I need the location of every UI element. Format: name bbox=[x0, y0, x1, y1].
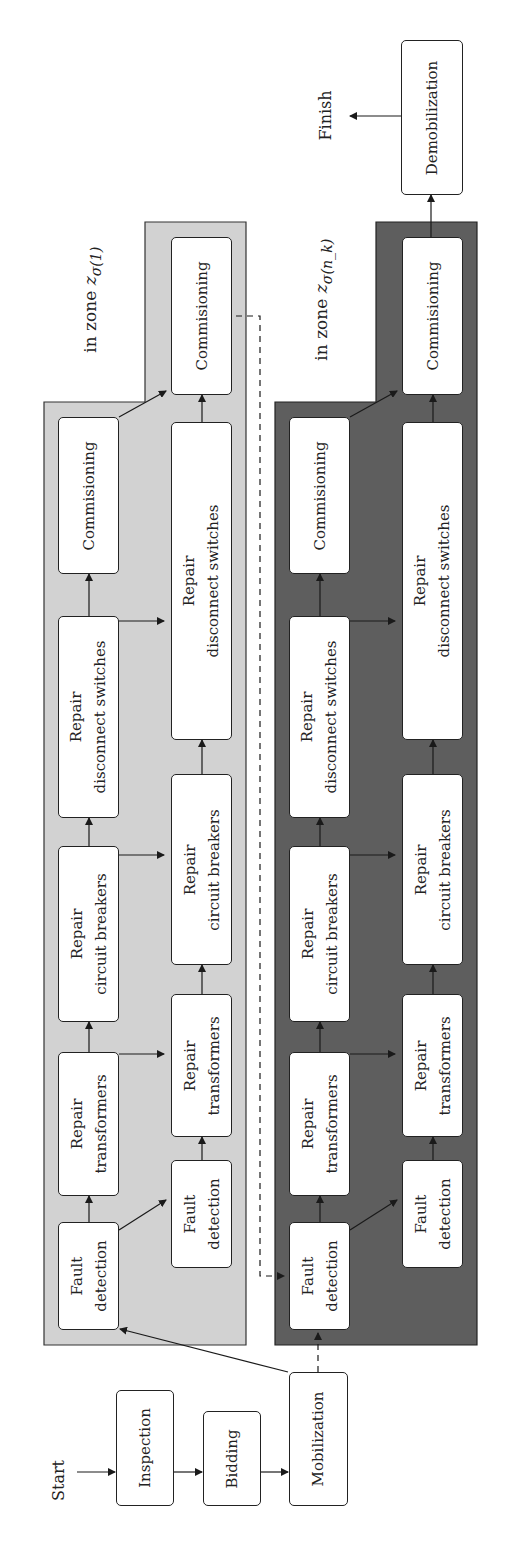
inspection-box[interactable]: Inspection bbox=[116, 1390, 174, 1506]
inspection-label: Inspection bbox=[133, 1408, 157, 1488]
znk-outer-repair-disconnect-switches[interactable]: Repairdisconnect switches bbox=[289, 616, 350, 818]
z1-inner-fault-detection[interactable]: Faultdetection bbox=[171, 1160, 232, 1268]
bidding-box[interactable]: Bidding bbox=[203, 1411, 261, 1506]
z1-outer-repair-circuit-breakers[interactable]: Repaircircuit breakers bbox=[58, 846, 119, 1022]
demobilization-label: Demobilization bbox=[420, 60, 444, 175]
start-label-wrap: Start bbox=[38, 1440, 78, 1520]
z1-inner-repair-disconnect-switches[interactable]: Repairdisconnect switches bbox=[171, 422, 232, 740]
znk-inner-commissioning[interactable]: Commisioning bbox=[402, 237, 463, 395]
znk-outer-repair-transformers[interactable]: Repairtransformers bbox=[289, 1052, 350, 1196]
znk-outer-fault-detection[interactable]: Faultdetection bbox=[289, 1222, 350, 1330]
z1-outer-repair-disconnect-switches[interactable]: Repairdisconnect switches bbox=[58, 616, 119, 818]
finish-label-wrap: Finish bbox=[305, 80, 345, 150]
znk-inner-fault-detection[interactable]: Faultdetection bbox=[402, 1160, 463, 1268]
bidding-label: Bidding bbox=[220, 1429, 244, 1488]
zone-nk-label: in zone zσ(n_k) bbox=[311, 239, 334, 361]
z1-outer-commissioning[interactable]: Commisioning bbox=[58, 417, 119, 574]
mobilization-box[interactable]: Mobilization bbox=[289, 1372, 348, 1506]
znk-inner-repair-circuit-breakers[interactable]: Repaircircuit breakers bbox=[402, 774, 463, 965]
znk-inner-repair-transformers[interactable]: Repairtransformers bbox=[402, 994, 463, 1137]
z1-outer-repair-transformers[interactable]: Repairtransformers bbox=[58, 1052, 119, 1196]
finish-label: Finish bbox=[316, 90, 335, 140]
z1-inner-repair-circuit-breakers[interactable]: Repaircircuit breakers bbox=[171, 774, 232, 965]
start-label: Start bbox=[49, 1459, 68, 1500]
znk-inner-repair-disconnect-switches[interactable]: Repairdisconnect switches bbox=[402, 422, 463, 740]
zone-1-label: in zone zσ(1) bbox=[80, 247, 103, 353]
zone-nk-label-wrap: in zone zσ(n_k) bbox=[303, 230, 343, 370]
znk-outer-commissioning[interactable]: Commisioning bbox=[289, 417, 350, 574]
zone-1-label-wrap: in zone zσ(1) bbox=[72, 230, 112, 370]
z1-outer-fault-detection[interactable]: Faultdetection bbox=[58, 1222, 119, 1330]
mobilization-label: Mobilization bbox=[307, 1392, 331, 1487]
demobilization-box[interactable]: Demobilization bbox=[401, 40, 463, 195]
z1-inner-commissioning[interactable]: Commisioning bbox=[171, 237, 232, 395]
znk-outer-repair-circuit-breakers[interactable]: Repaircircuit breakers bbox=[289, 846, 350, 1022]
z1-inner-repair-transformers[interactable]: Repairtransformers bbox=[171, 994, 232, 1137]
